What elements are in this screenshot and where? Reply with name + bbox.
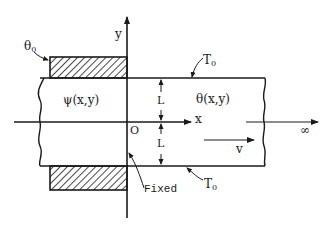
top-T0-leader <box>192 58 203 77</box>
origin-label: O <box>130 125 139 136</box>
x-axis-label: x <box>195 113 202 125</box>
diagram-graphics <box>0 0 328 232</box>
fixed-label: Fixed <box>144 184 177 195</box>
bottom-T0-leader <box>187 168 203 180</box>
dim-lower-L-label: L <box>157 138 164 149</box>
bottom-T0-label: T0 <box>204 178 217 192</box>
top-T-subscript: 0 <box>211 59 216 68</box>
top-hatched-block <box>50 57 127 78</box>
velocity-label: v <box>236 143 243 155</box>
bottom-T-subscript: 0 <box>212 183 217 192</box>
fixed-leader <box>129 153 144 188</box>
left-field-label: ψ(x,y) <box>63 94 99 106</box>
theta0-label: θ0 <box>24 40 36 54</box>
top-T0-label: T0 <box>203 54 216 68</box>
dim-upper-L-label: L <box>157 95 164 106</box>
bottom-hatched-block <box>50 166 127 190</box>
top-T-symbol: T <box>203 53 211 67</box>
bottom-T-symbol: T <box>204 177 212 191</box>
slab-diagram: y x O θ0 T0 T0 Fixed ψ(x,y) θ(x,y) L L v… <box>0 0 328 232</box>
theta0-subscript: 0 <box>31 45 36 54</box>
right-field-label: θ(x,y) <box>196 93 230 105</box>
y-axis-label: y <box>115 28 122 40</box>
infinity-label: ∞ <box>300 124 310 136</box>
